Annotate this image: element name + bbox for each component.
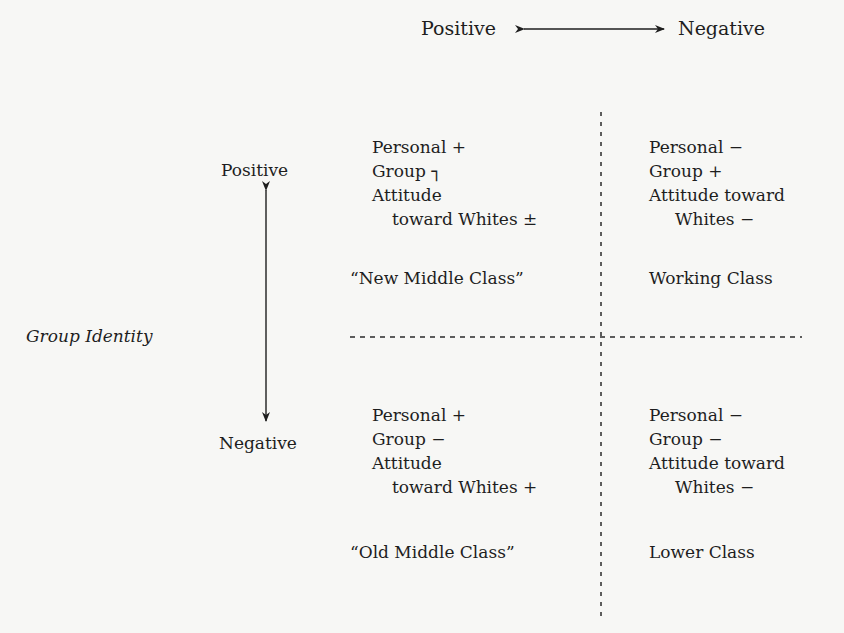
quadrant-line: Attitude toward: [649, 183, 785, 207]
quadrant-line: Group +: [649, 159, 785, 183]
quadrant-line: Group ┐: [372, 159, 537, 183]
quadrant-line: Personal +: [372, 403, 537, 427]
horizontal-axis-left-label: Positive: [421, 16, 496, 40]
vertical-axis-top-label: Positive: [221, 158, 288, 182]
diagram-lines: [0, 0, 844, 633]
quadrant-line: Whites −: [649, 207, 785, 231]
quadrant-line: Group −: [372, 427, 537, 451]
quadrant-bottom-right: Personal − Group − Attitude toward White…: [649, 403, 785, 499]
quadrant-line: Group −: [649, 427, 785, 451]
horizontal-axis-right-label: Negative: [678, 16, 765, 40]
quadrant-line: toward Whites ±: [372, 207, 537, 231]
quadrant-line: Personal −: [649, 135, 785, 159]
quadrant-top-right-class-label: Working Class: [649, 266, 773, 290]
quadrant-line: toward Whites +: [372, 475, 537, 499]
quadrant-bottom-left: Personal + Group − Attitude toward White…: [372, 403, 537, 499]
vertical-axis-title: Group Identity: [26, 324, 153, 348]
quadrant-bottom-left-class-label: “Old Middle Class”: [350, 540, 515, 564]
quadrant-line: Attitude toward: [649, 451, 785, 475]
quadrant-top-left: Personal + Group ┐ Attitude toward White…: [372, 135, 537, 231]
quadrant-line: Attitude: [372, 183, 537, 207]
quadrant-line: Attitude: [372, 451, 537, 475]
vertical-axis-bottom-label: Negative: [219, 431, 297, 455]
quadrant-line: Personal −: [649, 403, 785, 427]
quadrant-line: Whites −: [649, 475, 785, 499]
quadrant-top-right: Personal − Group + Attitude toward White…: [649, 135, 785, 231]
quadrant-line: Personal +: [372, 135, 537, 159]
quadrant-bottom-right-class-label: Lower Class: [649, 540, 755, 564]
quadrant-top-left-class-label: “New Middle Class”: [350, 266, 524, 290]
